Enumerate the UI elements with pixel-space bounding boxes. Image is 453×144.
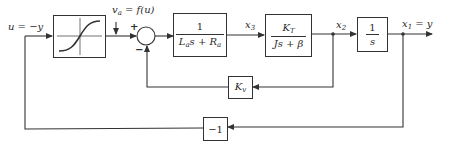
x1-label: x1 = y <box>402 19 433 31</box>
integrator-numerator: 1 <box>366 22 378 34</box>
mechanical-denominator: Js + β <box>271 38 307 50</box>
armature-numerator: 1 <box>194 21 206 33</box>
va-rest: = f(u) <box>122 4 155 15</box>
x3-label: x3 <box>245 20 255 32</box>
x2-label: x2 <box>336 20 346 32</box>
plus-sign: + <box>130 22 138 32</box>
integrator-block: 1 s <box>357 17 388 52</box>
armature-denominator: Las + Ra <box>176 36 224 49</box>
negation-block: −1 <box>203 117 228 141</box>
mechanical-numerator: KT <box>279 22 297 35</box>
back-emf-gain: Kv <box>235 81 246 94</box>
va-label: va = f(u) <box>112 5 155 17</box>
armature-block: 1 Las + Ra <box>173 13 227 57</box>
integrator-denominator: s <box>367 36 378 48</box>
negation-gain: −1 <box>208 124 223 135</box>
input-label: u = −y <box>8 22 43 32</box>
back-emf-block: Kv <box>228 76 253 99</box>
input-label-text: u = −y <box>8 21 43 32</box>
minus-sign: − <box>135 45 143 55</box>
mechanical-block: KT Js + β <box>265 14 312 57</box>
saturation-block <box>53 15 106 58</box>
